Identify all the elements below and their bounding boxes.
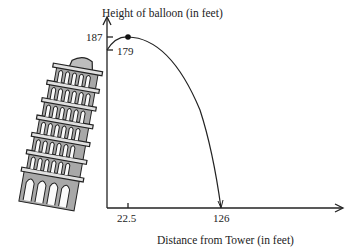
y-axis-label: Height of balloon (in feet) (102, 7, 223, 19)
diagram-canvas (0, 0, 361, 250)
leaning-tower-icon (16, 50, 105, 211)
x-axis-label: Distance from Tower (in feet) (157, 234, 294, 246)
balloon-path-curve (107, 37, 221, 208)
tick-label-126: 126 (213, 212, 230, 224)
tick-label-22-5: 22.5 (117, 212, 136, 224)
vertex-point (125, 34, 131, 40)
axes (103, 17, 343, 212)
tick-label-187: 187 (86, 31, 103, 43)
tick-label-179: 179 (117, 45, 134, 57)
